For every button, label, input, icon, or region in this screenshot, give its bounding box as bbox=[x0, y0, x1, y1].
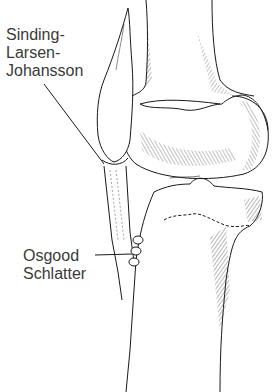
patellar-tendon bbox=[102, 158, 134, 300]
tibia bbox=[126, 176, 263, 392]
patella bbox=[97, 8, 133, 162]
sinding-larsen-johansson-leader bbox=[44, 84, 104, 164]
femur bbox=[122, 0, 268, 179]
knee-illustration bbox=[0, 0, 278, 392]
osgood-schlatter-leader bbox=[95, 254, 132, 255]
